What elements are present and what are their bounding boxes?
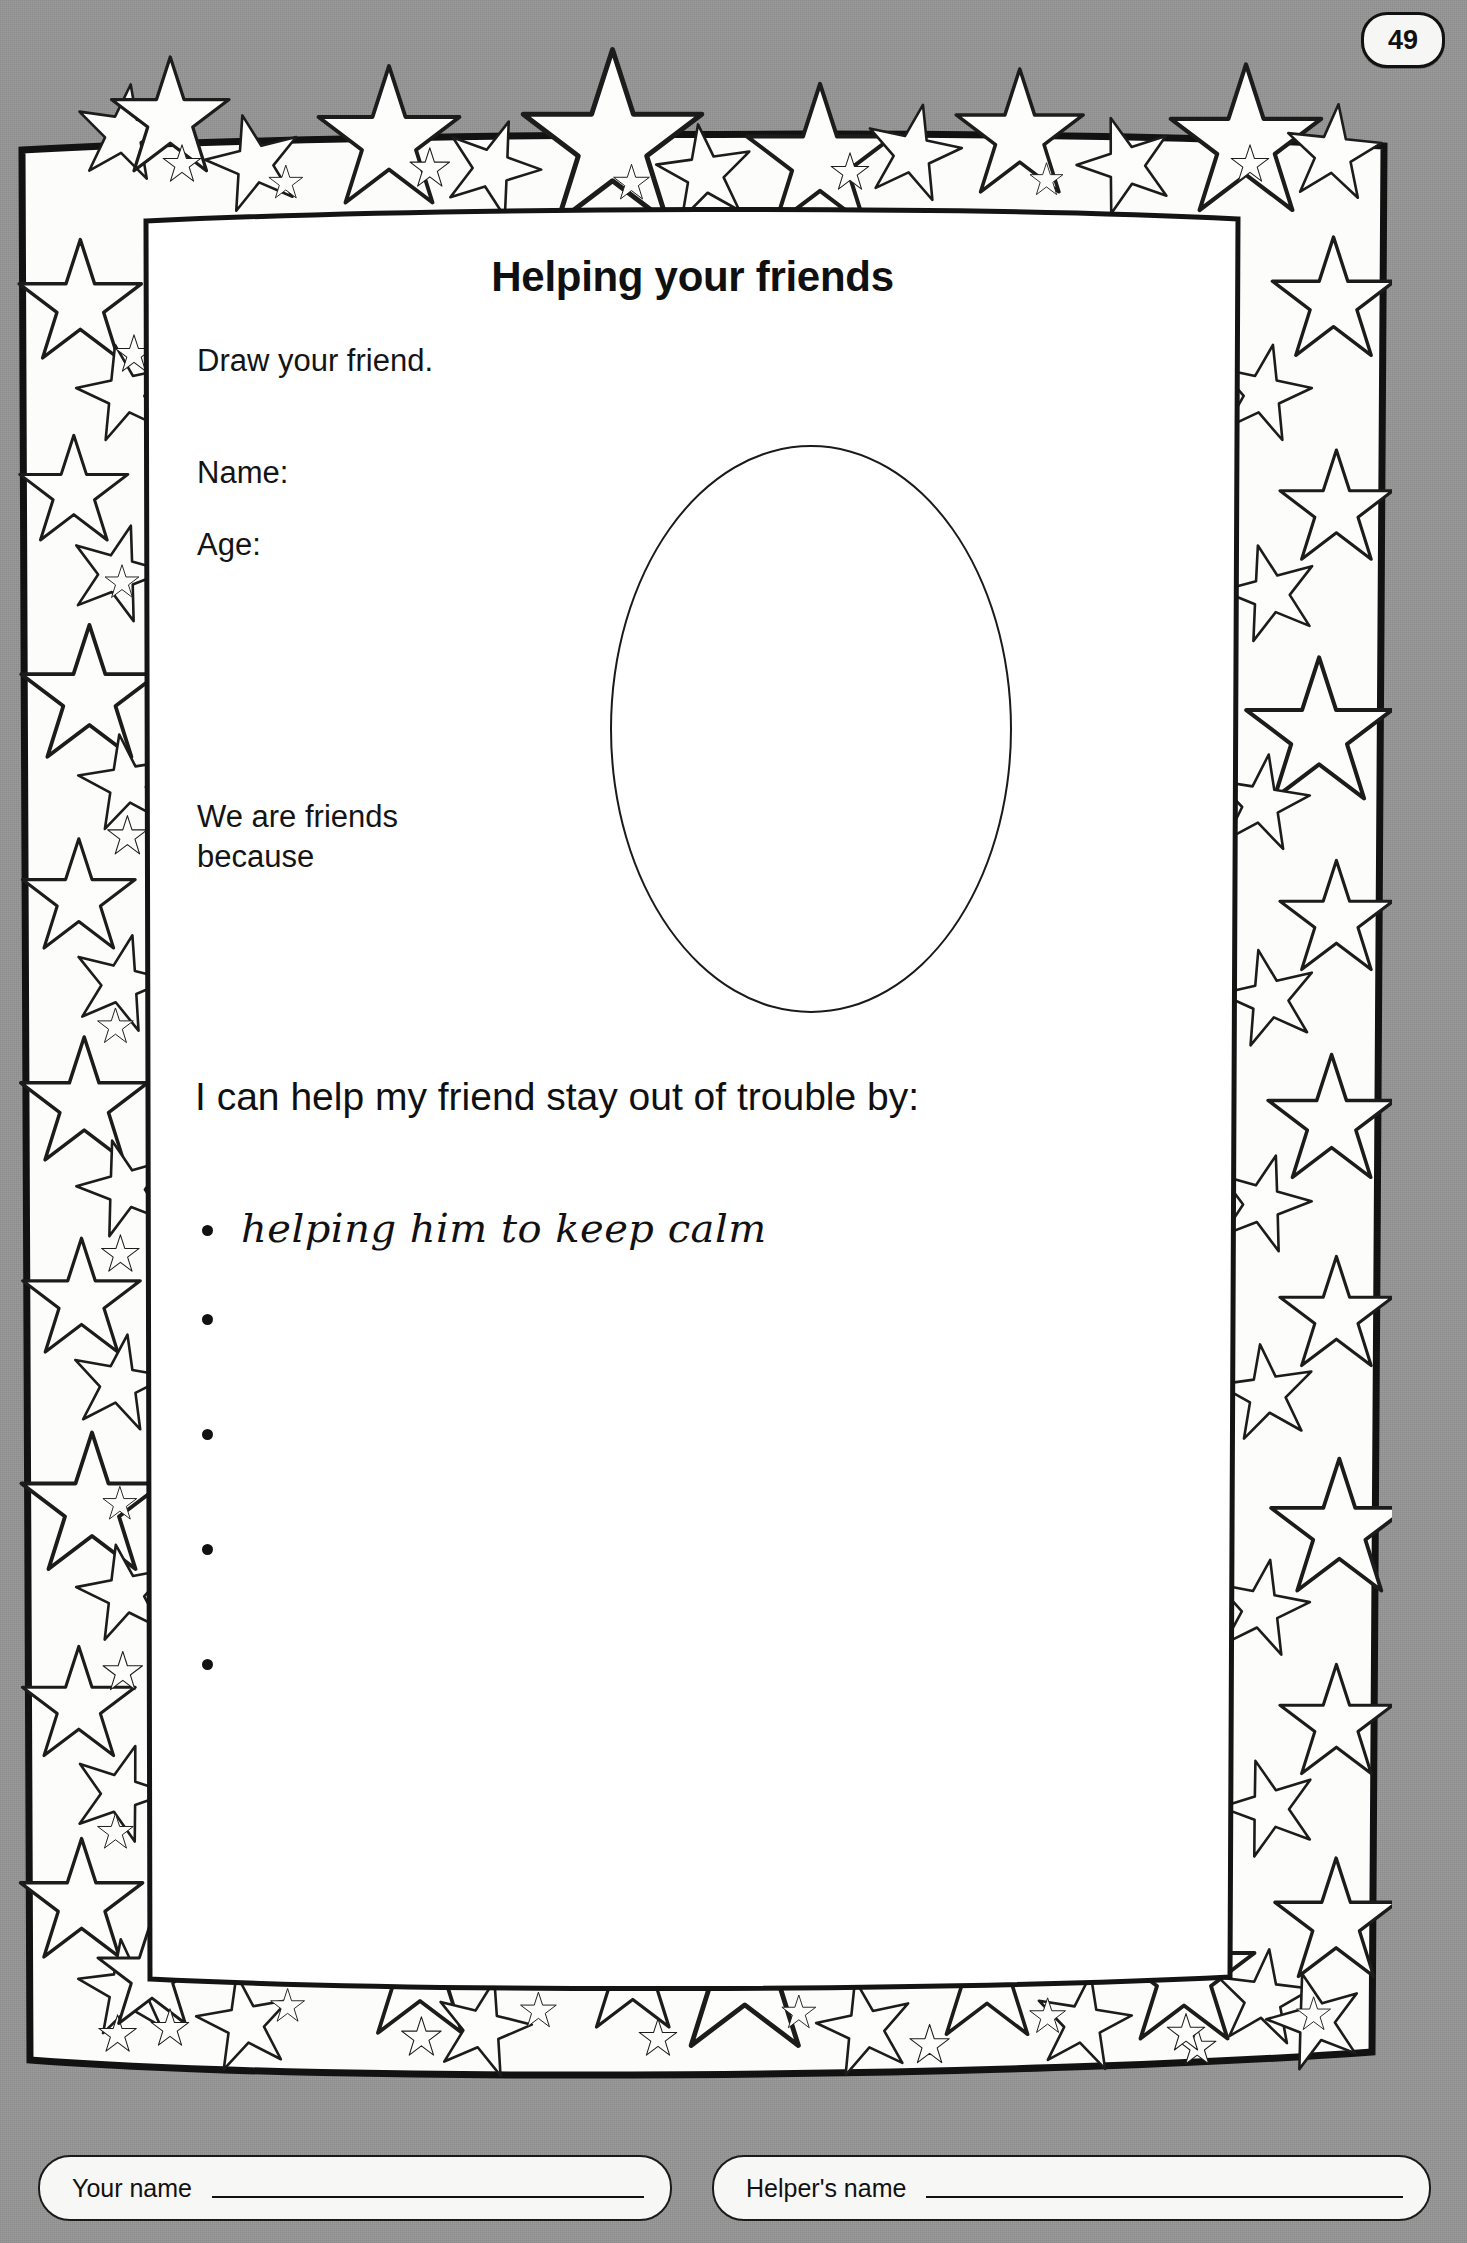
draw-instruction-label: Draw your friend. [197,341,433,381]
bullet-dot-icon [202,1429,213,1440]
helpers-name-field[interactable]: Helper's name [712,2155,1431,2221]
help-prompt-text: I can help my friend stay out of trouble… [195,1075,919,1119]
answer-row-1[interactable]: helping him to keep calm [202,1205,767,1251]
your-name-field[interactable]: Your name [38,2155,672,2221]
bullet-dot-icon [202,1225,213,1236]
answer-row-4[interactable] [202,1550,241,1561]
answer-text-1: helping him to keep calm [241,1205,767,1251]
your-name-label: Your name [72,2174,192,2203]
helpers-name-writing-line[interactable] [926,2196,1403,2198]
your-name-writing-line[interactable] [212,2196,644,2198]
bullet-dot-icon [202,1314,213,1325]
answer-row-3[interactable] [202,1435,241,1446]
age-field-label: Age: [197,525,261,565]
page-number-badge: 49 [1361,12,1445,68]
worksheet-panel: Helping your friends Draw your friend. N… [140,205,1245,1995]
answer-row-5[interactable] [202,1665,241,1676]
page-title: Helping your friends [140,253,1245,301]
answer-row-2[interactable] [202,1320,241,1331]
friend-portrait-oval[interactable] [610,445,1012,1013]
bullet-dot-icon [202,1659,213,1670]
name-field-label: Name: [197,453,288,493]
page-number-text: 49 [1388,25,1418,56]
bullet-dot-icon [202,1544,213,1555]
reason-field-label: We are friends because [197,797,398,876]
helpers-name-label: Helper's name [746,2174,906,2203]
